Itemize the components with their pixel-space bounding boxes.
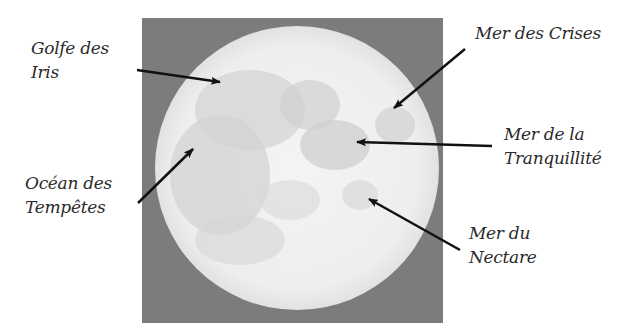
label-line: Nectare [469, 245, 537, 269]
label-line: Iris [31, 60, 109, 84]
label-line: Tempêtes [25, 195, 112, 219]
moon-disc [155, 26, 439, 310]
label-line: Golfe des [31, 36, 109, 60]
label-golfe-des-iris: Golfe des Iris [31, 36, 109, 84]
label-line: Océan des [25, 171, 112, 195]
label-line: Tranquillité [504, 146, 601, 170]
label-line: Mer de la [504, 122, 601, 146]
label-line: Mer des Crises [475, 21, 601, 45]
label-mer-de-la-tranquillite: Mer de la Tranquillité [504, 122, 601, 170]
label-ocean-des-tempetes: Océan des Tempêtes [25, 171, 112, 219]
label-mer-du-nectare: Mer du Nectare [469, 221, 537, 269]
label-line: Mer du [469, 221, 537, 245]
label-mer-des-crises: Mer des Crises [475, 21, 601, 45]
